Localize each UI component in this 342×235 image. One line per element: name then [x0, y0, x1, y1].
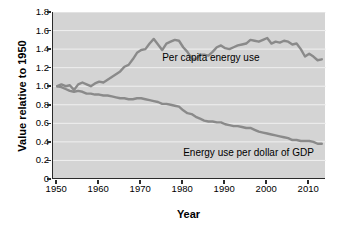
- x-tick-label: 2010: [285, 184, 331, 194]
- x-tick-mark: [181, 180, 183, 184]
- x-axis-title: Year: [52, 208, 325, 220]
- y-tick-label: 1.2: [3, 63, 49, 73]
- energy-use-chart: Value relative to 1950 00.20.40.60.81.01…: [0, 0, 342, 235]
- y-tick-label: 1.4: [3, 44, 49, 54]
- y-tick-mark: [47, 141, 51, 143]
- y-tick-label: 0: [3, 174, 49, 184]
- x-tick-label: 1980: [159, 184, 205, 194]
- x-tick-label: 1960: [75, 184, 121, 194]
- x-tick-label: 1970: [117, 184, 163, 194]
- x-tick-label: 1990: [201, 184, 247, 194]
- series-label-energy-per-gdp: Energy use per dollar of GDP: [183, 147, 314, 158]
- x-tick-mark: [223, 180, 225, 184]
- x-tick-mark: [265, 180, 267, 184]
- x-tick-label: 2000: [243, 184, 289, 194]
- y-tick-mark: [47, 160, 51, 162]
- y-tick-mark: [47, 123, 51, 125]
- y-tick-mark: [47, 11, 51, 13]
- series-label-per-capita-energy-use: Per capita energy use: [162, 52, 259, 63]
- y-tick-mark: [47, 30, 51, 32]
- x-tick-label: 1950: [33, 184, 79, 194]
- plot-area: Per capita energy use Energy use per dol…: [52, 12, 325, 179]
- x-tick-mark: [139, 180, 141, 184]
- y-tick-mark: [47, 85, 51, 87]
- y-tick-mark: [47, 104, 51, 106]
- y-tick-label: 1.8: [3, 7, 49, 17]
- y-tick-label: 1.6: [3, 26, 49, 36]
- x-tick-mark: [97, 180, 99, 184]
- x-axis-tick-labels: 1950196019701980199020002010: [0, 184, 342, 204]
- y-tick-label: 0.6: [3, 118, 49, 128]
- x-tick-mark: [55, 180, 57, 184]
- y-tick-label: 0.4: [3, 137, 49, 147]
- y-tick-mark: [47, 67, 51, 69]
- y-tick-mark: [47, 178, 51, 180]
- x-tick-mark: [307, 180, 309, 184]
- y-tick-label: 1.0: [3, 81, 49, 91]
- y-tick-mark: [47, 48, 51, 50]
- y-tick-label: 0.8: [3, 100, 49, 110]
- y-tick-label: 0.2: [3, 155, 49, 165]
